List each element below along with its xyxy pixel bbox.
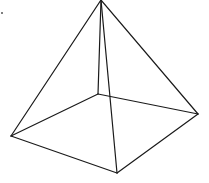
edge-apex-back — [98, 0, 101, 94]
corner-dot — [1, 12, 3, 14]
edge-front-right — [117, 114, 198, 173]
pyramid-edges — [11, 0, 198, 173]
diagram-marks — [1, 12, 3, 14]
edge-back-left — [11, 94, 98, 136]
edge-apex-left — [11, 0, 101, 136]
edge-left-front — [11, 136, 117, 173]
edge-apex-front — [101, 0, 117, 173]
pyramid-diagram — [0, 0, 209, 183]
